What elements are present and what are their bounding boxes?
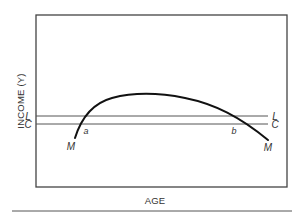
plot-frame bbox=[36, 15, 287, 187]
income-age-diagram: INCOME (Y) L C L C M M a b AGE bbox=[0, 0, 300, 217]
label-C-right: C bbox=[271, 119, 279, 130]
label-M-end: M bbox=[264, 142, 273, 153]
label-point-a: a bbox=[83, 126, 88, 136]
label-M-start: M bbox=[67, 141, 76, 152]
curve-M bbox=[75, 94, 268, 140]
label-point-b: b bbox=[231, 126, 236, 136]
label-C-left: C bbox=[24, 119, 32, 130]
x-axis-label: AGE bbox=[145, 195, 166, 206]
